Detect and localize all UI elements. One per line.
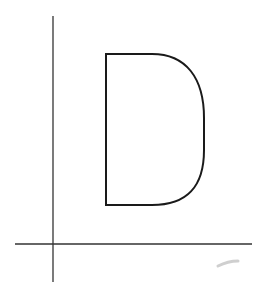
letter-d-outline <box>106 54 204 205</box>
smudge-mark <box>218 261 238 266</box>
diagram-canvas <box>0 0 268 306</box>
